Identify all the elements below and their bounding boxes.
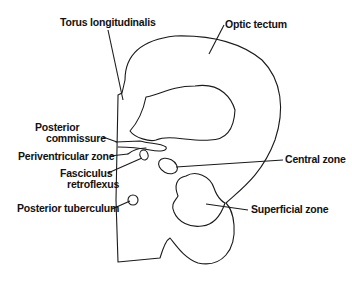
leader-central-zone (176, 160, 283, 167)
leader-optic-tectum (209, 25, 224, 54)
label-optic-tectum: Optic tectum (225, 18, 287, 30)
label-superficial-zone: Superficial zone (251, 203, 329, 215)
brain-section-diagram: Torus longitudinalis Optic tectum Poster… (0, 0, 352, 282)
label-posterior-tuberculum: Posterior tuberculum (17, 202, 119, 214)
leader-torus-longitudinalis (108, 30, 123, 100)
label-posterior-commissure-line2: commissure (46, 132, 106, 144)
posterior-commissure-shape (116, 141, 166, 151)
outer-section-outline (116, 36, 281, 264)
posterior-tuberculum-shape (128, 195, 138, 205)
superficial-zone-shape (173, 174, 225, 227)
label-torus-longitudinalis: Torus longitudinalis (60, 16, 156, 28)
label-fasciculus-retroflexus-line2: retroflexus (67, 178, 119, 190)
ventricle-outline (130, 85, 235, 140)
label-periventricular-zone: Periventricular zone (18, 150, 115, 162)
label-central-zone: Central zone (285, 153, 346, 165)
central-zone-shape (156, 155, 180, 177)
